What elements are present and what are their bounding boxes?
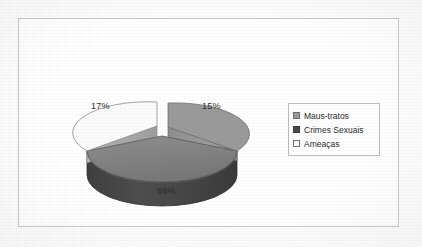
legend-label-maus-tratos: Maus-tratos xyxy=(304,111,349,121)
data-label-crimes-sexuais: 68% xyxy=(157,186,176,196)
chart-frame: 17% 15% 68% Maus-tratos Crimes Sexuais A… xyxy=(18,18,399,227)
plot-area: 17% 15% 68% Maus-tratos Crimes Sexuais A… xyxy=(19,19,400,228)
legend-item-maus-tratos: Maus-tratos xyxy=(293,109,374,122)
chart-legend: Maus-tratos Crimes Sexuais Ameaças xyxy=(288,103,380,156)
legend-label-ameacas: Ameaças xyxy=(304,139,339,149)
data-label-maus-tratos: 15% xyxy=(202,101,221,111)
legend-item-crimes-sexuais: Crimes Sexuais xyxy=(293,123,374,136)
scanned-page: 17% 15% 68% Maus-tratos Crimes Sexuais A… xyxy=(0,0,422,247)
data-label-ameacas: 17% xyxy=(91,101,110,111)
legend-swatch-crimes-sexuais xyxy=(293,126,300,133)
legend-swatch-maus-tratos xyxy=(293,112,300,119)
legend-item-ameacas: Ameaças xyxy=(293,137,374,150)
legend-label-crimes-sexuais: Crimes Sexuais xyxy=(304,125,364,135)
legend-swatch-ameacas xyxy=(293,140,300,147)
